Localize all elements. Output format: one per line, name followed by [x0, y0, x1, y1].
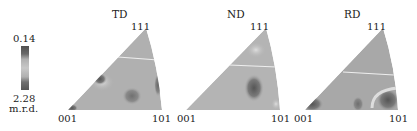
corner-label-001: 001 [58, 114, 77, 124]
ipf-triangle-td [66, 28, 162, 112]
ipf-triangle-nd [186, 28, 281, 110]
panel-title-nd: ND [227, 9, 245, 19]
corner-label-101: 101 [271, 114, 290, 124]
corner-label-001: 001 [177, 114, 196, 124]
panel-title-td: TD [112, 9, 127, 19]
corner-label-101: 101 [389, 114, 408, 124]
ipf-triangle-rd [300, 28, 400, 112]
corner-label-111: 111 [367, 22, 386, 32]
corner-label-111: 111 [250, 22, 269, 32]
corner-label-001: 001 [294, 114, 313, 124]
corner-label-111: 111 [131, 22, 150, 32]
panel-title-rd: RD [344, 9, 360, 19]
corner-label-101: 101 [152, 114, 171, 124]
